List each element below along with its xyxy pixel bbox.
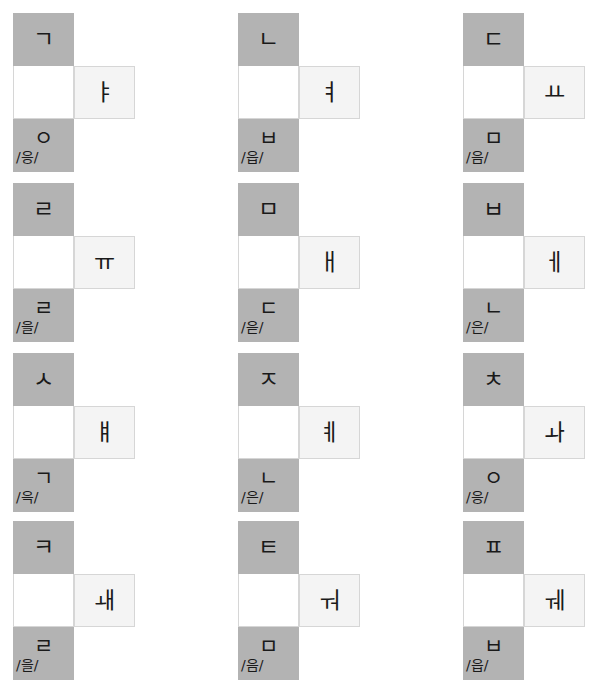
medial-blank-cell xyxy=(238,574,299,627)
initial-consonant-glyph: ㅌ xyxy=(258,536,279,559)
final-consonant-glyph: ㅇ xyxy=(34,128,53,149)
initial-consonant-cell: ㅊ xyxy=(463,353,524,406)
initial-consonant-cell: ㄹ xyxy=(13,183,74,236)
vowel-glyph: ㅞ xyxy=(544,589,565,612)
initial-consonant-glyph: ㄹ xyxy=(33,198,54,221)
initial-consonant-glyph: ㅋ xyxy=(33,536,54,559)
medial-blank-cell xyxy=(238,66,299,119)
initial-consonant-glyph: ㅅ xyxy=(33,368,54,391)
vowel-cell: ㅙ xyxy=(74,574,135,627)
vowel-cell: ㅘ xyxy=(524,406,585,459)
syllable-block: ㅔㅂㄴ/은/ xyxy=(450,183,591,353)
final-consonant-glyph: ㄹ xyxy=(34,298,53,319)
initial-consonant-cell: ㄱ xyxy=(13,13,74,66)
vowel-glyph: ㅝ xyxy=(319,589,340,612)
initial-consonant-glyph: ㅁ xyxy=(258,198,279,221)
syllable-block: ㅙㅋㄹ/을/ xyxy=(0,521,188,684)
syllable-block: ㅕㄴㅂ/읍/ xyxy=(225,13,413,183)
final-consonant-cell: ㄹ/을/ xyxy=(13,627,74,680)
vowel-cell: ㅑ xyxy=(74,66,135,119)
final-consonant-glyph: ㄴ xyxy=(259,468,278,489)
vowel-cell: ㅛ xyxy=(524,66,585,119)
final-consonant-glyph: ㅂ xyxy=(259,128,278,149)
syllable-block: ㅝㅌㅁ/음/ xyxy=(225,521,413,684)
medial-blank-cell xyxy=(13,406,74,459)
syllable-block: ㅒㅅㄱ/윽/ xyxy=(0,353,188,523)
syllable-block: ㅖㅈㄴ/은/ xyxy=(225,353,413,523)
initial-consonant-cell: ㅋ xyxy=(13,521,74,574)
final-consonant-cell: ㅇ/응/ xyxy=(13,119,74,172)
romanization-label: /을/ xyxy=(16,320,38,334)
final-consonant-cell: ㅇ/응/ xyxy=(463,459,524,512)
final-consonant-cell: ㅂ/읍/ xyxy=(463,627,524,680)
initial-consonant-cell: ㅅ xyxy=(13,353,74,406)
initial-consonant-glyph: ㅊ xyxy=(483,368,504,391)
syllable-block: ㅠㄹㄹ/을/ xyxy=(0,183,188,353)
final-consonant-cell: ㄹ/을/ xyxy=(13,289,74,342)
romanization-label: /읍/ xyxy=(241,150,263,164)
vowel-cell: ㅐ xyxy=(299,236,360,289)
vowel-glyph: ㅛ xyxy=(544,81,565,104)
final-consonant-glyph: ㄱ xyxy=(34,468,53,489)
romanization-label: /응/ xyxy=(466,490,488,504)
vowel-glyph: ㅔ xyxy=(544,251,565,274)
initial-consonant-cell: ㅁ xyxy=(238,183,299,236)
romanization-label: /을/ xyxy=(16,658,38,672)
vowel-cell: ㅔ xyxy=(524,236,585,289)
medial-blank-cell xyxy=(238,406,299,459)
romanization-label: /읍/ xyxy=(466,658,488,672)
vowel-glyph: ㅒ xyxy=(94,421,115,444)
vowel-glyph: ㅘ xyxy=(544,421,565,444)
syllable-block: ㅐㅁㄷ/읃/ xyxy=(225,183,413,353)
final-consonant-cell: ㄴ/은/ xyxy=(463,289,524,342)
medial-blank-cell xyxy=(13,574,74,627)
syllable-block: ㅘㅊㅇ/응/ xyxy=(450,353,591,523)
initial-consonant-cell: ㅈ xyxy=(238,353,299,406)
romanization-label: /은/ xyxy=(466,320,488,334)
initial-consonant-cell: ㅂ xyxy=(463,183,524,236)
initial-consonant-glyph: ㅍ xyxy=(483,536,504,559)
vowel-glyph: ㅙ xyxy=(94,589,115,612)
final-consonant-glyph: ㅁ xyxy=(259,636,278,657)
medial-blank-cell xyxy=(463,236,524,289)
final-consonant-cell: ㅁ/음/ xyxy=(238,627,299,680)
vowel-glyph: ㅕ xyxy=(319,81,340,104)
syllable-block: ㅛㄷㅁ/음/ xyxy=(450,13,591,183)
final-consonant-cell: ㄱ/윽/ xyxy=(13,459,74,512)
vowel-glyph: ㅑ xyxy=(94,81,115,104)
vowel-cell: ㅖ xyxy=(299,406,360,459)
romanization-label: /음/ xyxy=(466,150,488,164)
final-consonant-cell: ㅂ/읍/ xyxy=(238,119,299,172)
final-consonant-glyph: ㄴ xyxy=(484,298,503,319)
medial-blank-cell xyxy=(463,66,524,119)
romanization-label: /응/ xyxy=(16,150,38,164)
initial-consonant-glyph: ㅈ xyxy=(258,368,279,391)
medial-blank-cell xyxy=(463,574,524,627)
romanization-label: /은/ xyxy=(241,490,263,504)
medial-blank-cell xyxy=(463,406,524,459)
final-consonant-glyph: ㄹ xyxy=(34,636,53,657)
final-consonant-glyph: ㄷ xyxy=(259,298,278,319)
medial-blank-cell xyxy=(13,66,74,119)
final-consonant-cell: ㅁ/음/ xyxy=(463,119,524,172)
vowel-cell: ㅞ xyxy=(524,574,585,627)
syllable-block: ㅑㄱㅇ/응/ xyxy=(0,13,188,183)
vowel-glyph: ㅐ xyxy=(319,251,340,274)
initial-consonant-glyph: ㅂ xyxy=(483,198,504,221)
final-consonant-glyph: ㅇ xyxy=(484,468,503,489)
vowel-glyph: ㅖ xyxy=(319,421,340,444)
vowel-cell: ㅕ xyxy=(299,66,360,119)
vowel-glyph: ㅠ xyxy=(94,251,115,274)
final-consonant-glyph: ㅂ xyxy=(484,636,503,657)
romanization-label: /윽/ xyxy=(16,490,38,504)
initial-consonant-glyph: ㄴ xyxy=(258,28,279,51)
initial-consonant-cell: ㄴ xyxy=(238,13,299,66)
romanization-label: /읃/ xyxy=(241,320,263,334)
vowel-cell: ㅠ xyxy=(74,236,135,289)
initial-consonant-glyph: ㄷ xyxy=(483,28,504,51)
romanization-label: /음/ xyxy=(241,658,263,672)
initial-consonant-cell: ㄷ xyxy=(463,13,524,66)
final-consonant-cell: ㄴ/은/ xyxy=(238,459,299,512)
final-consonant-glyph: ㅁ xyxy=(484,128,503,149)
